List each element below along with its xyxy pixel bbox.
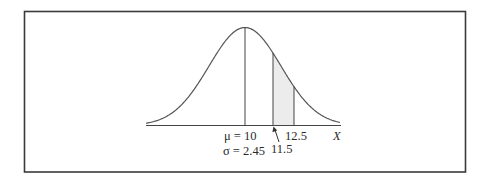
lower-bound-label: 11.5 xyxy=(271,142,292,156)
x-axis-label: X xyxy=(332,129,342,143)
arrow-icon xyxy=(275,130,279,142)
mean-label: μ = 10 xyxy=(224,129,257,143)
normal-curve xyxy=(146,28,340,124)
arrowhead-icon xyxy=(272,127,277,133)
shaded-probability-region xyxy=(273,53,294,125)
upper-bound-label: 12.5 xyxy=(285,129,307,143)
normal-distribution-figure: μ = 10 σ = 2.45 12.5 11.5 X xyxy=(0,0,490,180)
sd-label: σ = 2.45 xyxy=(223,144,265,158)
